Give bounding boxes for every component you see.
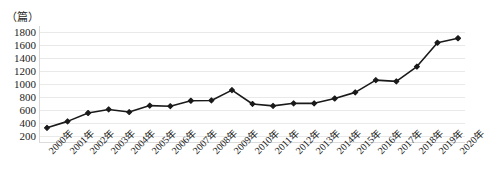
x-axis-tick-label: 2018年 xyxy=(417,149,424,156)
data-point-marker[interactable] xyxy=(127,110,132,115)
data-point-marker[interactable] xyxy=(147,103,152,108)
data-point-marker[interactable] xyxy=(168,104,173,109)
data-point-marker[interactable] xyxy=(65,119,70,124)
x-axis-tick-label: 2009年 xyxy=(232,149,239,156)
x-axis-tick-label: 2004年 xyxy=(129,149,136,156)
data-point-marker[interactable] xyxy=(291,101,296,106)
x-axis-tick-label: 2012年 xyxy=(294,149,301,156)
y-axis: 20040060080010001200140016001800 xyxy=(0,26,38,142)
x-axis-tick-label: 2019年 xyxy=(437,149,444,156)
series-line-svg xyxy=(40,26,465,142)
data-point-marker[interactable] xyxy=(106,107,111,112)
data-point-marker[interactable] xyxy=(188,98,193,103)
data-point-marker[interactable] xyxy=(271,103,276,108)
data-point-marker[interactable] xyxy=(86,111,91,116)
data-point-marker[interactable] xyxy=(456,36,461,41)
y-axis-tick-label: 1000 xyxy=(14,79,36,90)
y-axis-tick-label: 1200 xyxy=(14,66,36,77)
x-axis-tick-label: 2013年 xyxy=(314,149,321,156)
x-axis-tick-label: 2020年 xyxy=(458,149,465,156)
plot-area xyxy=(40,26,465,142)
x-axis-tick-label: 2014年 xyxy=(335,149,342,156)
y-axis-tick-label: 1600 xyxy=(14,40,36,51)
x-axis-tick-label: 2002年 xyxy=(88,149,95,156)
y-axis-tick-label: 800 xyxy=(20,91,37,102)
x-axis-tick-label: 2008年 xyxy=(211,149,218,156)
x-axis-tick-label: 2003年 xyxy=(109,149,116,156)
x-axis-tick-label: 2010年 xyxy=(253,149,260,156)
x-axis-tick-label: 2017年 xyxy=(396,149,403,156)
y-axis-tick-label: 1400 xyxy=(14,53,36,64)
x-axis-tick-label: 2011年 xyxy=(273,149,280,156)
data-point-marker[interactable] xyxy=(45,125,50,130)
data-point-marker[interactable] xyxy=(332,96,337,101)
x-axis-tick-label: 2001年 xyxy=(68,149,75,156)
x-axis-tick-label: 2016年 xyxy=(376,149,383,156)
x-axis-tick-label: 2015年 xyxy=(355,149,362,156)
y-axis-unit-label: （篇） xyxy=(6,11,39,23)
x-axis-tick-label: 2000年 xyxy=(47,149,54,156)
y-axis-tick-label: 200 xyxy=(20,130,37,141)
x-axis: 2000年2001年2002年2003年2004年2005年2006年2007年… xyxy=(40,143,465,196)
x-axis-tick-label: 2007年 xyxy=(191,149,198,156)
y-axis-tick-label: 1800 xyxy=(14,27,36,38)
x-axis-tick-label: 2005年 xyxy=(150,149,157,156)
y-axis-tick-label: 600 xyxy=(20,104,37,115)
x-axis-tick-label: 2006年 xyxy=(170,149,177,156)
data-point-marker[interactable] xyxy=(312,101,317,106)
y-axis-tick-label: 400 xyxy=(20,117,37,128)
